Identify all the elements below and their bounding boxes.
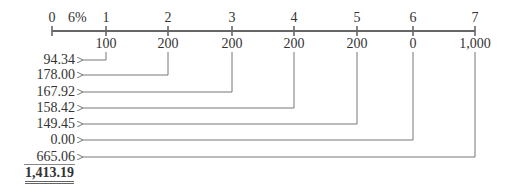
period-label-2: 2 bbox=[165, 10, 172, 26]
period-label-7: 7 bbox=[472, 10, 479, 26]
present-value-1: 94.34 bbox=[15, 52, 75, 68]
present-value-6: 0.00 bbox=[15, 132, 75, 148]
cash-flow-5: 200 bbox=[347, 36, 368, 52]
period-label-6: 6 bbox=[410, 10, 417, 26]
period-label-3: 3 bbox=[229, 10, 236, 26]
period-label-5: 5 bbox=[354, 10, 361, 26]
cash-flow-3: 200 bbox=[222, 36, 243, 52]
present-value-total: 1,413.19 bbox=[25, 165, 74, 184]
period-label-1: 1 bbox=[103, 10, 110, 26]
present-value-3: 167.92 bbox=[15, 84, 75, 100]
cash-flow-2: 200 bbox=[158, 36, 179, 52]
interest-rate-label: 6% bbox=[68, 10, 87, 26]
cash-flow-timeline-graphic bbox=[0, 0, 511, 188]
present-value-7: 665.06 bbox=[15, 149, 75, 165]
present-value-5: 149.45 bbox=[15, 116, 75, 132]
cash-flow-4: 200 bbox=[284, 36, 305, 52]
cash-flow-7: 1,000 bbox=[459, 36, 491, 52]
period-label-0: 0 bbox=[49, 10, 56, 26]
present-value-2: 178.00 bbox=[15, 67, 75, 83]
period-label-4: 4 bbox=[291, 10, 298, 26]
cash-flow-6: 0 bbox=[410, 36, 417, 52]
discount-arrows bbox=[83, 52, 475, 157]
cash-flow-1: 100 bbox=[96, 36, 117, 52]
present-value-4: 158.42 bbox=[15, 100, 75, 116]
